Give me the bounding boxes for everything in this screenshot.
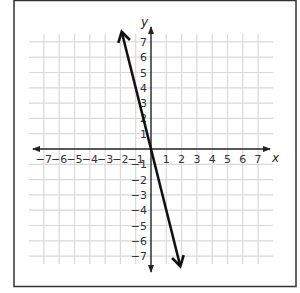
figure-frame [14, 1, 296, 287]
x-tick-label: 6 [239, 153, 246, 166]
y-tick-label: 5 [140, 67, 147, 80]
y-axis-label: y [140, 15, 149, 29]
x-tick-label: −6 [51, 153, 67, 166]
x-tick-label: 7 [255, 153, 262, 166]
y-tick-label: −3 [131, 189, 147, 202]
y-tick-label: 6 [140, 51, 147, 64]
x-tick-label: 1 [163, 153, 170, 166]
x-tick-label: 5 [224, 153, 231, 166]
y-tick-label: 4 [140, 82, 147, 95]
y-tick-label: −7 [131, 250, 147, 263]
x-tick-label: 4 [209, 153, 216, 166]
x-tick-label: 2 [178, 153, 185, 166]
y-tick-label: −1 [131, 158, 147, 171]
y-tick-label: 7 [140, 36, 147, 49]
x-tick-label: −7 [36, 153, 52, 166]
x-tick-label: 3 [193, 153, 200, 166]
y-tick-label: −6 [131, 235, 147, 248]
graph-svg: −7−6−5−4−3−2−11234567−7−6−5−4−3−2−112345… [0, 0, 300, 293]
y-tick-label: −2 [131, 174, 147, 187]
x-tick-label: −2 [112, 153, 128, 166]
x-tick-label: −3 [97, 153, 113, 166]
x-tick-label: −4 [82, 153, 98, 166]
coordinate-plane-figure: −7−6−5−4−3−2−11234567−7−6−5−4−3−2−112345… [0, 0, 300, 293]
y-tick-label: −5 [131, 220, 147, 233]
y-tick-label: −4 [131, 204, 147, 217]
x-axis-label: x [271, 151, 280, 165]
x-tick-label: −5 [66, 153, 82, 166]
